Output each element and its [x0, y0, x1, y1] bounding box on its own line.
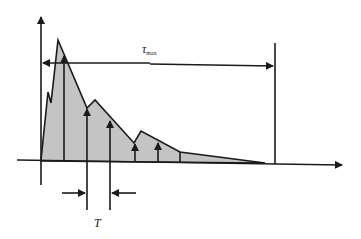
power-delay-envelope — [41, 40, 265, 163]
tau-max-arrow-right — [150, 64, 273, 66]
period-label: T — [94, 216, 102, 230]
impulse-response-diagram: τmax T — [0, 0, 361, 239]
tau-max-label: τmax — [142, 42, 157, 56]
